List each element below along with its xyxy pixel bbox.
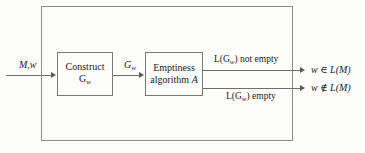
construct-box-line2-subscript: w: [86, 78, 91, 86]
emptiness-box-line2: algorithm A: [150, 74, 198, 85]
construct-box: Construct Gw: [57, 52, 113, 96]
branch-empty-arrowhead: [300, 85, 305, 91]
construct-box-line2: Gw: [79, 73, 91, 84]
diagram-canvas: M,w Construct Gw Gw Emptiness algorithm …: [0, 0, 365, 153]
branch-not-empty-condition-prefix: L(G: [214, 54, 230, 64]
output-reject-set: L(M): [330, 82, 351, 93]
branch-not-empty-condition: L(Gw) not empty: [214, 55, 278, 66]
emptiness-box-label: Emptiness algorithm A: [148, 62, 200, 87]
output-reject-label: w ∉ L(M): [311, 83, 351, 93]
branch-not-empty-condition-suffix: ) not empty: [235, 54, 279, 64]
output-accept-variable: w: [311, 64, 318, 75]
input-arrowhead: [51, 72, 56, 78]
construct-box-label: Construct Gw: [64, 61, 107, 87]
intermediate-label-subscript: w: [131, 64, 136, 72]
output-accept-relation: ∈: [320, 64, 327, 75]
branch-empty-condition: L(Gw) empty: [226, 92, 276, 103]
emptiness-box-line1: Emptiness: [153, 62, 195, 73]
input-label-text: M,w: [19, 59, 37, 70]
emptiness-box: Emptiness algorithm A: [145, 52, 203, 96]
intermediate-label: Gw: [124, 60, 136, 72]
output-accept-set: L(M): [330, 64, 351, 75]
emptiness-box-line2-text: algorithm: [150, 74, 189, 85]
output-reject-variable: w: [311, 82, 318, 93]
branch-not-empty-line: [203, 70, 301, 71]
branch-empty-condition-prefix: L(G: [226, 91, 242, 101]
construct-box-line1: Construct: [66, 61, 105, 72]
intermediate-arrowhead: [139, 72, 144, 78]
branch-not-empty-arrowhead: [300, 67, 305, 73]
input-label: M,w: [19, 60, 37, 70]
intermediate-arrow-line: [113, 75, 140, 76]
input-arrow-line: [6, 75, 52, 76]
branch-empty-line: [203, 88, 301, 89]
output-accept-label: w ∈ L(M): [311, 65, 351, 75]
branch-empty-condition-suffix: ) empty: [247, 91, 276, 101]
emptiness-box-algorithm-name: A: [192, 74, 198, 85]
output-reject-relation: ∉: [320, 82, 327, 93]
